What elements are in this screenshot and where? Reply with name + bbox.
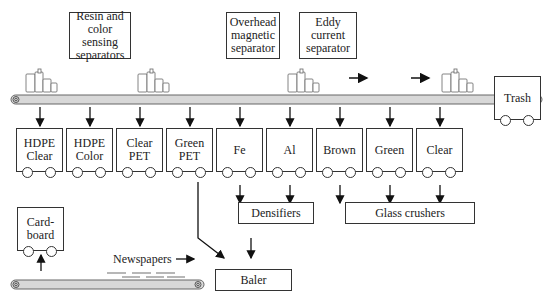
cart-label: Green PET <box>166 128 213 172</box>
cart-al: Al <box>266 128 313 180</box>
wheel-icon <box>222 167 233 178</box>
wheel-icon <box>372 167 383 178</box>
cart-hdpe-clear: HDPE Clear <box>16 128 63 180</box>
cart-trash: Trash <box>494 76 541 128</box>
wheel-icon <box>145 167 156 178</box>
wheel-icon <box>322 167 333 178</box>
containers-icon <box>26 69 473 92</box>
cart-label: Al <box>266 128 313 172</box>
wheel-icon <box>172 167 183 178</box>
paper-conveyor <box>11 280 204 289</box>
cart-label: HDPE Clear <box>16 128 63 172</box>
cart-label: HDPE Color <box>66 128 113 172</box>
wheel-icon <box>245 167 256 178</box>
cart-label: Fe <box>216 128 263 172</box>
wheel-icon <box>422 167 433 178</box>
wheel-icon <box>500 115 511 126</box>
cart-green-pet: Green PET <box>166 128 213 180</box>
wheel-icon <box>395 167 406 178</box>
newspaper-stacks-icon <box>107 273 185 277</box>
wheel-icon <box>45 167 56 178</box>
cart-label: Trash <box>494 76 541 120</box>
cart-label: Clear <box>416 128 463 172</box>
cart-label: Brown <box>316 128 363 172</box>
densifiers-label: Densifiers <box>251 207 300 220</box>
processor-arrows <box>41 182 440 271</box>
wheel-icon <box>295 167 306 178</box>
cart-label: Green <box>366 128 413 172</box>
densifiers-box: Densifiers <box>238 202 314 224</box>
cart-green-glass: Green <box>366 128 413 180</box>
cart-hdpe-color: HDPE Color <box>66 128 113 180</box>
cart-clear-glass: Clear <box>416 128 463 180</box>
wheel-icon <box>445 167 456 178</box>
wheel-icon <box>523 115 534 126</box>
cart-cardboard: Card- board <box>17 207 64 259</box>
cart-label: Clear PET <box>116 128 163 172</box>
baler-box: Baler <box>215 269 292 291</box>
wheel-icon <box>23 246 34 257</box>
cart-fe: Fe <box>216 128 263 180</box>
wheel-icon <box>272 167 283 178</box>
wheel-icon <box>95 167 106 178</box>
wheel-icon <box>46 246 57 257</box>
wheel-icon <box>22 167 33 178</box>
wheel-icon <box>195 167 206 178</box>
glass-crushers-box: Glass crushers <box>345 202 475 224</box>
wheel-icon <box>72 167 83 178</box>
cart-label: Card- board <box>17 207 64 251</box>
cart-brown-glass: Brown <box>316 128 363 180</box>
wheel-icon <box>122 167 133 178</box>
cart-clear-pet: Clear PET <box>116 128 163 180</box>
drop-arrows <box>40 107 440 126</box>
main-conveyor <box>11 95 542 104</box>
glass-crushers-label: Glass crushers <box>375 207 445 220</box>
newspapers-label: Newspapers <box>113 252 172 267</box>
wheel-icon <box>345 167 356 178</box>
baler-label: Baler <box>241 274 267 287</box>
